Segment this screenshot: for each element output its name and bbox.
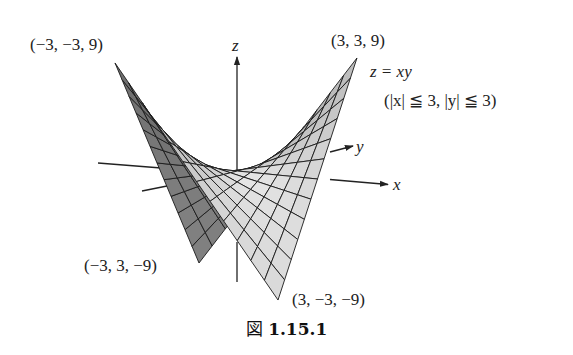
z-axis-label: z — [232, 37, 239, 54]
domain-label: (|x| ≦ 3, |y| ≦ 3) — [384, 92, 496, 109]
x-axis-front — [330, 180, 388, 185]
surface-patch — [122, 80, 143, 110]
figure-caption: 図 1.15.1 — [0, 315, 573, 340]
surface-patch — [115, 63, 136, 96]
x-axis-label: x — [393, 176, 401, 193]
corner-label-bottom-left: (−3, 3, −9) — [84, 257, 157, 274]
equation-label: z = xy — [370, 63, 412, 80]
y-axis-label: y — [356, 138, 364, 155]
corner-label-top-right: (3, 3, 9) — [331, 32, 385, 49]
caption-prefix: 図 — [246, 319, 263, 339]
caption-number: 1.15.1 — [268, 319, 327, 339]
y-axis-front — [330, 146, 353, 152]
corner-label-bottom-right: (3, −3, −9) — [292, 291, 365, 308]
corner-label-top-left: (−3, −3, 9) — [30, 36, 103, 53]
